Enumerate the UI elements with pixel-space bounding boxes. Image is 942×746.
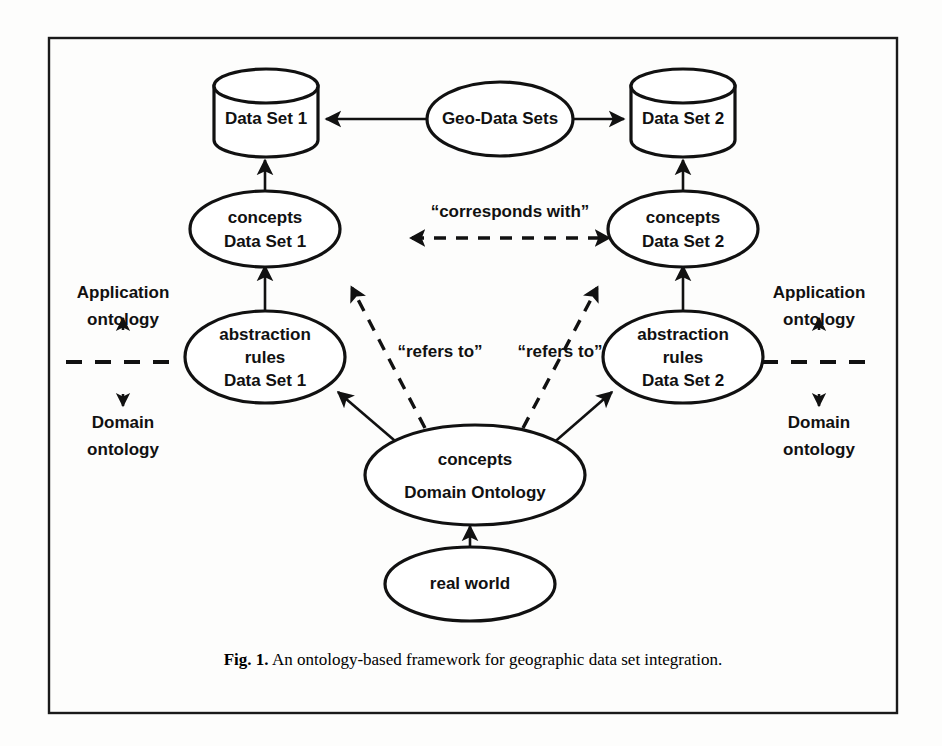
node-abstraction-rules-2-line1: abstraction: [637, 325, 729, 344]
node-abstraction-rules-1-line3: Data Set 1: [224, 371, 306, 390]
right-application-ontology-line2: ontology: [783, 310, 855, 329]
figure-container: Data Set 1 Data Set 2 Geo-Data Sets conc…: [0, 0, 942, 746]
node-geo-data-sets[interactable]: Geo-Data Sets: [427, 82, 573, 156]
node-real-world-label: real world: [430, 574, 510, 593]
node-abstraction-rules-2-line3: Data Set 2: [642, 371, 724, 390]
node-data-set-1[interactable]: Data Set 1: [214, 69, 318, 157]
node-concepts-domain-ontology[interactable]: concepts Domain Ontology: [365, 425, 585, 525]
node-abstraction-rules-2-line2: rules: [663, 348, 704, 367]
node-data-set-2[interactable]: Data Set 2: [631, 69, 735, 157]
node-concepts-domain-line2: Domain Ontology: [404, 483, 546, 502]
left-domain-ontology-line1: Domain: [92, 413, 154, 432]
node-abstraction-rules-1-line2: rules: [245, 348, 286, 367]
left-application-ontology-line2: ontology: [87, 310, 159, 329]
node-concepts-domain-line1: concepts: [438, 450, 513, 469]
node-geo-data-sets-label: Geo-Data Sets: [442, 109, 558, 128]
node-concepts-data-set-1-line1: concepts: [228, 208, 303, 227]
node-concepts-data-set-1-line2: Data Set 1: [224, 232, 306, 251]
node-abstraction-rules-1-line1: abstraction: [219, 325, 311, 344]
right-application-ontology-line1: Application: [773, 283, 866, 302]
ontology-framework-diagram: Data Set 1 Data Set 2 Geo-Data Sets conc…: [0, 0, 942, 746]
node-concepts-data-set-1[interactable]: concepts Data Set 1: [190, 191, 340, 267]
node-data-set-2-label: Data Set 2: [642, 109, 724, 128]
left-application-ontology-line1: Application: [77, 283, 170, 302]
left-domain-ontology-line2: ontology: [87, 440, 159, 459]
node-concepts-data-set-2-line1: concepts: [646, 208, 721, 227]
figure-caption-prefix: Fig. 1.: [224, 650, 269, 669]
right-domain-ontology-line2: ontology: [783, 440, 855, 459]
node-data-set-1-label: Data Set 1: [225, 109, 307, 128]
node-abstraction-rules-data-set-1[interactable]: abstraction rules Data Set 1: [185, 311, 345, 403]
figure-caption-body: An ontology-based framework for geograph…: [269, 650, 723, 669]
node-concepts-data-set-2-line2: Data Set 2: [642, 232, 724, 251]
label-refers-to-right: “refers to”: [517, 342, 602, 361]
label-refers-to-left: “refers to”: [397, 342, 482, 361]
label-corresponds-with: “corresponds with”: [431, 202, 590, 221]
figure-caption: Fig. 1. An ontology-based framework for …: [224, 650, 723, 669]
node-concepts-data-set-2[interactable]: concepts Data Set 2: [608, 191, 758, 267]
node-real-world[interactable]: real world: [385, 547, 555, 621]
node-abstraction-rules-data-set-2[interactable]: abstraction rules Data Set 2: [603, 311, 763, 403]
right-domain-ontology-line1: Domain: [788, 413, 850, 432]
